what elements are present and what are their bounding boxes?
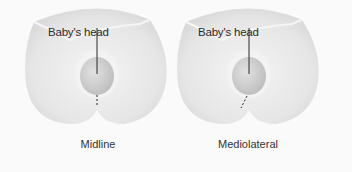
babys-head-label: Baby's head (198, 26, 259, 38)
panel-mediolateral: Baby's head Mediolateral (176, 0, 352, 172)
panel-midline: Baby's head Midline (0, 0, 176, 172)
babys-head-label: Baby's head (48, 26, 109, 38)
caption-mediolateral: Mediolateral (160, 138, 336, 150)
